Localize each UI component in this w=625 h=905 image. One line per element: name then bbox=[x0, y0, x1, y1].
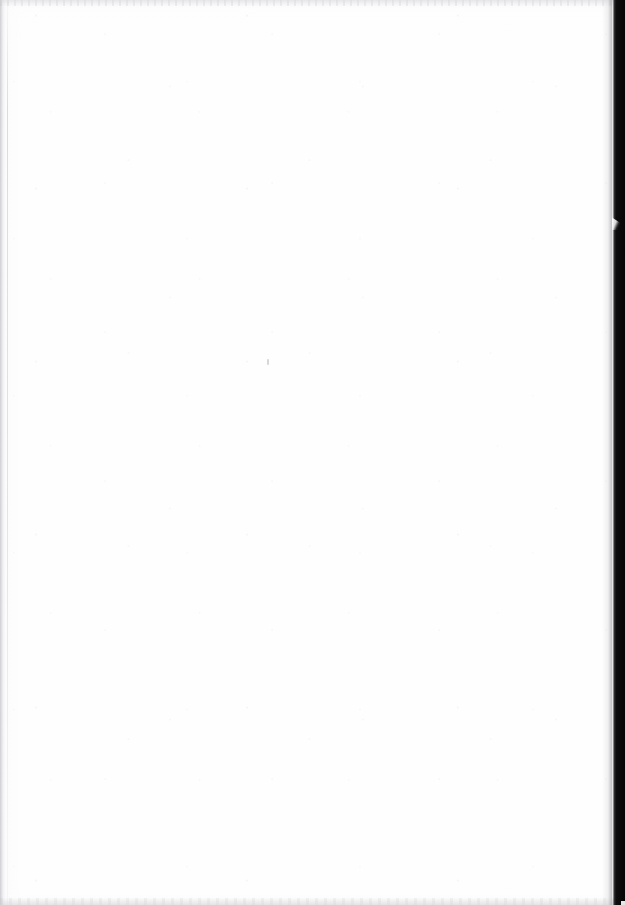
paper-surface bbox=[0, 0, 625, 905]
scanner-background-band bbox=[612, 0, 625, 905]
page-edge-notch bbox=[612, 216, 625, 230]
bottom-right-corner-chip bbox=[621, 901, 625, 905]
left-trim-smudge bbox=[0, 0, 5, 905]
bottom-trim-line bbox=[0, 898, 625, 905]
top-trim-speckle bbox=[0, 0, 625, 6]
page-edge-shadow bbox=[602, 0, 612, 905]
stray-ink-speck bbox=[267, 359, 269, 365]
scanned-page bbox=[0, 0, 625, 905]
left-margin-line bbox=[7, 0, 8, 905]
